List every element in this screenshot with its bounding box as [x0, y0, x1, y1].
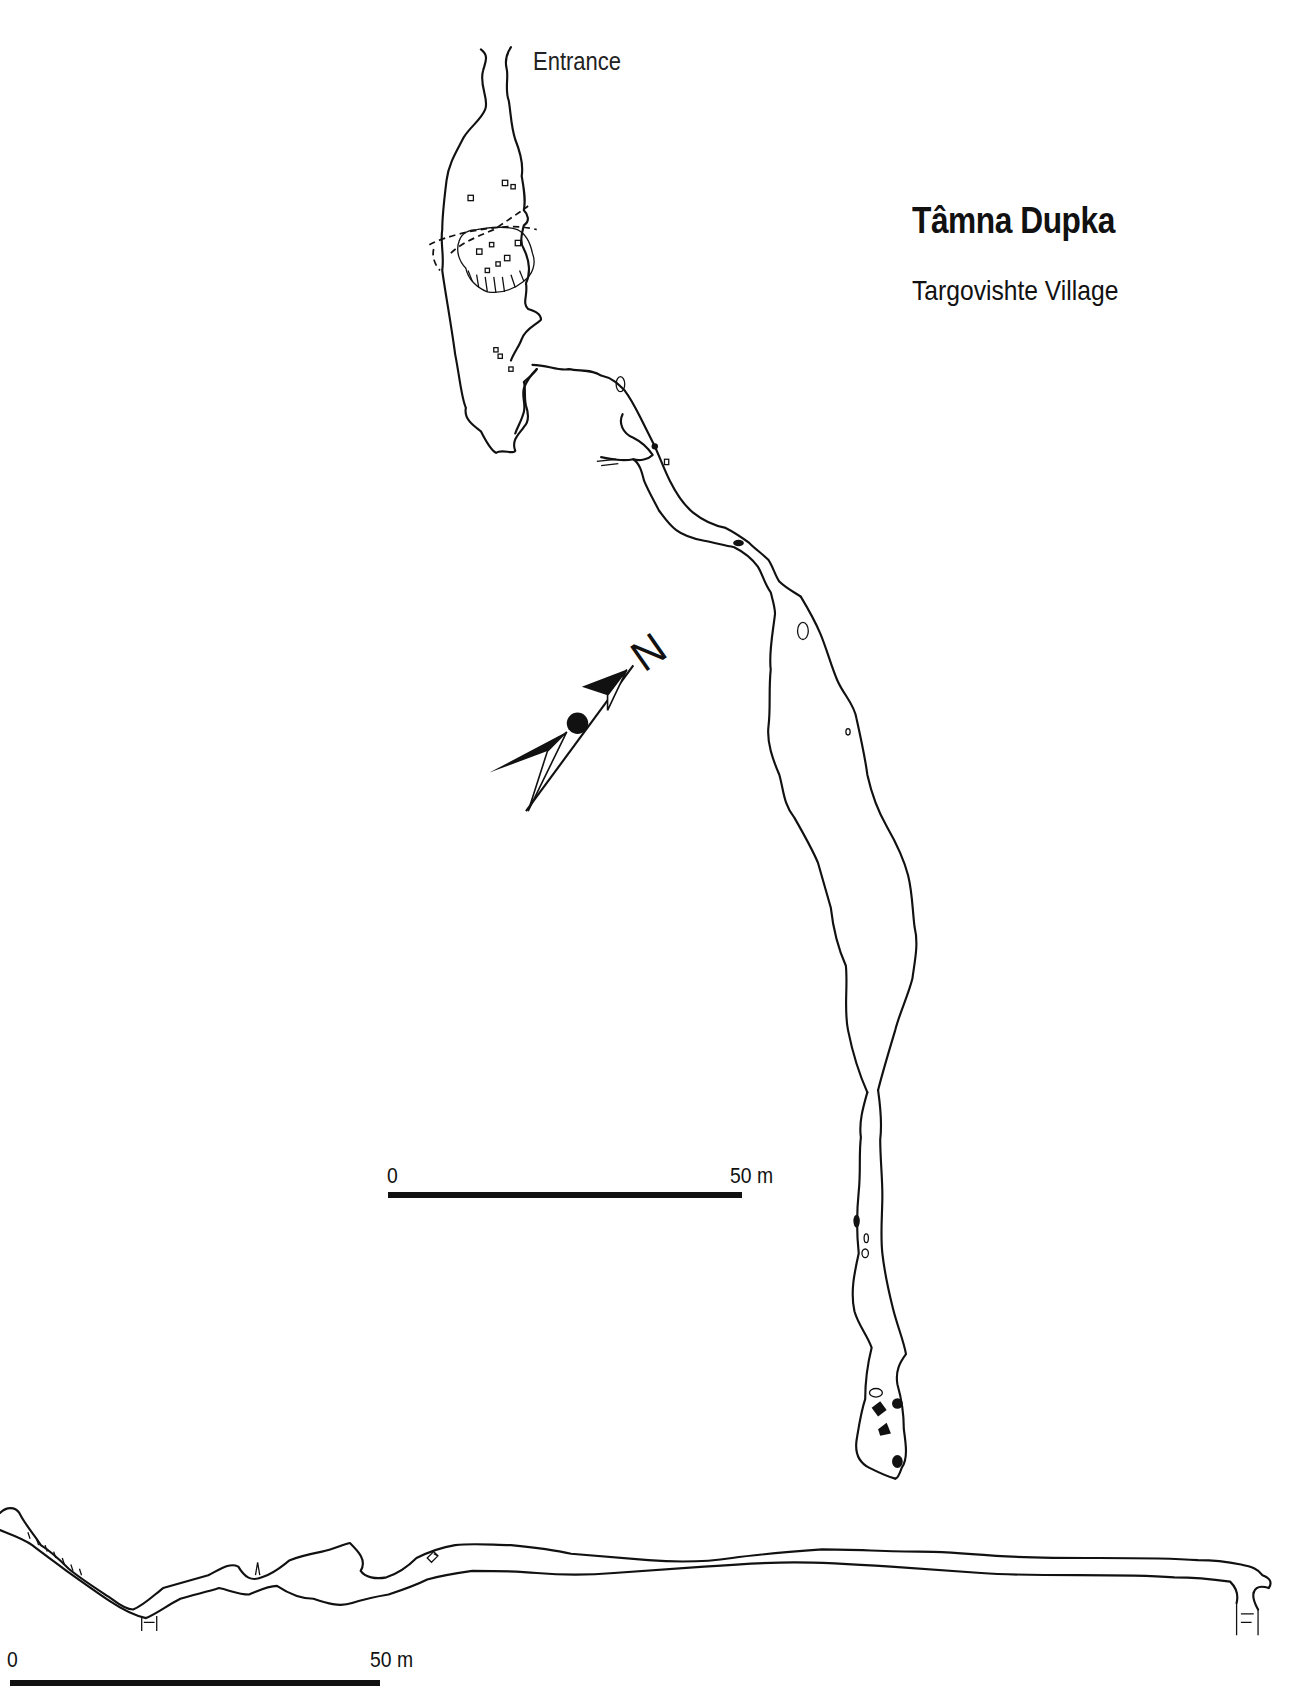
profile-ceiling	[0, 1508, 1271, 1609]
south-passage-east-wall	[878, 1090, 906, 1478]
passage-lower-wall	[515, 369, 775, 614]
chamber-outline	[458, 227, 534, 292]
hall-east-wall	[801, 597, 917, 1091]
hall-west-wall	[768, 614, 867, 1093]
north-arrow-icon: N	[489, 623, 674, 811]
side-passage	[621, 414, 653, 460]
cave-survey-drawing: N	[0, 0, 1301, 1690]
hatched-slope	[468, 270, 524, 293]
profile-sump-right	[1237, 1603, 1258, 1635]
south-passage-west-wall	[853, 1092, 896, 1478]
profile-floor	[0, 1530, 1258, 1618]
filled-features	[652, 443, 903, 1468]
passage-upper-wall	[532, 365, 800, 597]
profile-view	[0, 1508, 1271, 1635]
entrance-wall-right	[506, 47, 541, 360]
plan-view	[429, 47, 916, 1478]
boulder-symbols	[468, 180, 882, 1397]
